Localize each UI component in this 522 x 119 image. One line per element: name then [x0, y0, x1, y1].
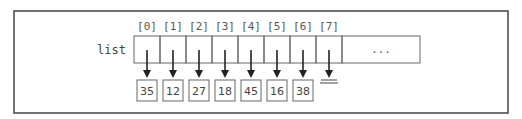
value-text: 45	[244, 85, 258, 98]
value-text: 16	[270, 85, 284, 98]
value-text: 38	[296, 85, 310, 98]
index-label: [6]	[293, 20, 313, 33]
ellipsis-text: ...	[371, 43, 391, 56]
value-text: 12	[166, 85, 180, 98]
value-text: 27	[192, 85, 206, 98]
index-label: [2]	[189, 20, 209, 33]
index-label: [4]	[241, 20, 261, 33]
index-label: [1]	[163, 20, 183, 33]
index-label: [5]	[267, 20, 287, 33]
value-text: 35	[140, 85, 154, 98]
variable-label: list	[97, 43, 126, 57]
index-label: [7]	[319, 20, 339, 33]
array-diagram: list [0][1][2][3][4][5][6][7] 3512271845…	[0, 0, 522, 119]
value-text: 18	[218, 85, 232, 98]
index-label: [3]	[215, 20, 235, 33]
index-label: [0]	[137, 20, 157, 33]
